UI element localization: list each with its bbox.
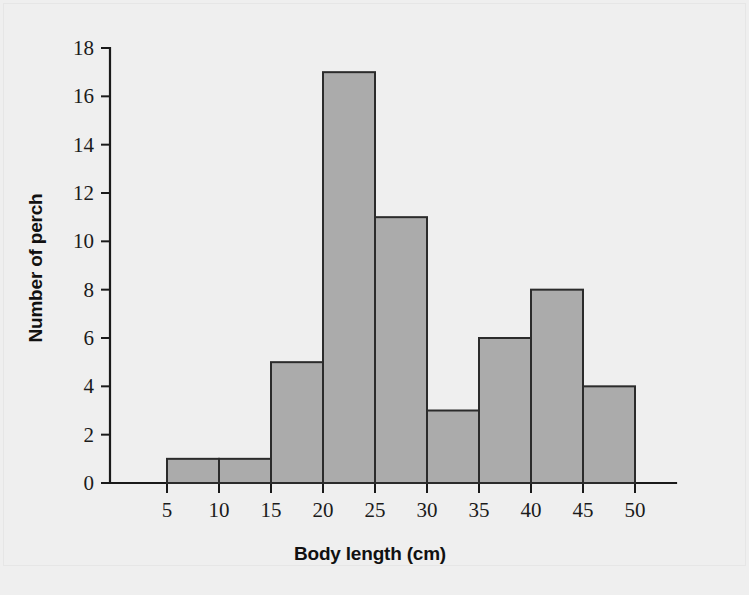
y-axis-ticks: 024681012141618 bbox=[73, 36, 110, 495]
histogram-bar bbox=[323, 72, 375, 483]
x-tick-label: 20 bbox=[313, 498, 334, 522]
histogram-bar bbox=[531, 290, 583, 483]
histogram-plot: Number of perch Body length (cm) 0246810… bbox=[0, 0, 749, 595]
histogram-bar bbox=[375, 217, 427, 483]
histogram-bar bbox=[427, 411, 479, 484]
y-tick-label: 2 bbox=[84, 423, 95, 447]
histogram-bar bbox=[167, 459, 219, 483]
histogram-bars bbox=[167, 72, 635, 483]
x-tick-label: 30 bbox=[417, 498, 438, 522]
histogram-bar bbox=[479, 338, 531, 483]
y-tick-label: 14 bbox=[73, 133, 95, 157]
histogram-bar bbox=[583, 386, 635, 483]
y-tick-label: 8 bbox=[84, 278, 95, 302]
histogram-bar bbox=[271, 362, 323, 483]
histogram-bar bbox=[219, 459, 271, 483]
x-axis-title: Body length (cm) bbox=[294, 543, 446, 564]
y-tick-label: 18 bbox=[73, 36, 94, 60]
y-tick-label: 0 bbox=[84, 471, 95, 495]
y-tick-label: 4 bbox=[84, 374, 95, 398]
x-tick-label: 10 bbox=[209, 498, 230, 522]
x-tick-label: 45 bbox=[573, 498, 594, 522]
y-axis-title: Number of perch bbox=[25, 193, 46, 342]
x-tick-label: 40 bbox=[521, 498, 542, 522]
x-tick-label: 35 bbox=[469, 498, 490, 522]
y-tick-label: 10 bbox=[73, 229, 94, 253]
x-axis-ticks: 5101520253035404550 bbox=[162, 483, 646, 522]
x-tick-label: 15 bbox=[261, 498, 282, 522]
x-tick-label: 25 bbox=[365, 498, 386, 522]
x-tick-label: 50 bbox=[625, 498, 646, 522]
y-tick-label: 12 bbox=[73, 181, 94, 205]
y-tick-label: 6 bbox=[84, 326, 95, 350]
y-tick-label: 16 bbox=[73, 84, 94, 108]
histogram-figure: Number of perch Body length (cm) 0246810… bbox=[0, 0, 749, 595]
x-tick-label: 5 bbox=[162, 498, 173, 522]
